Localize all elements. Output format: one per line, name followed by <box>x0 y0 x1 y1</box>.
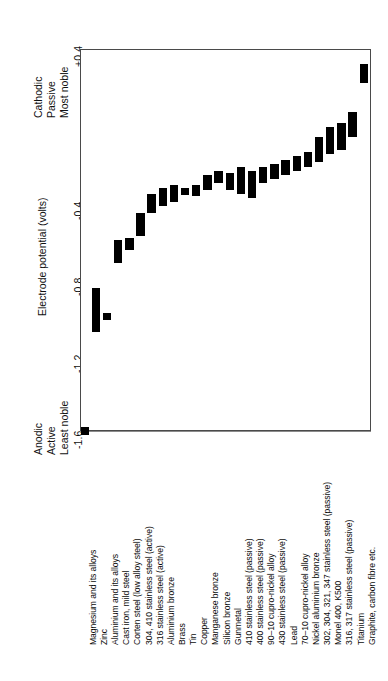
galvanic-series-chart: Cathodic Passive Most noble Anodic Activ… <box>0 0 388 681</box>
bar-10 <box>192 185 200 196</box>
bar-2 <box>103 313 111 320</box>
annotation-cathodic: Cathodic <box>32 77 44 118</box>
bar-21 <box>315 137 323 162</box>
bar-20 <box>304 152 312 167</box>
bar-12 <box>214 171 222 182</box>
category-label-25: Graphite, carbon fibre etc. <box>367 547 377 645</box>
category-label-6: 316 stainless steel (active) <box>155 545 165 645</box>
bar-8 <box>170 185 178 202</box>
category-label-14: 410 stainless steel (passive) <box>244 538 254 645</box>
category-label-15: 400 stainless steel (passive) <box>255 538 265 645</box>
annotation-least-noble: Least noble <box>58 401 70 455</box>
annotation-active: Active <box>45 426 57 455</box>
category-label-19: 70–10 cupro-nickel alloy <box>300 554 310 645</box>
category-label-5: 304, 410 stainless steel (active) <box>144 526 154 645</box>
category-label-7: Aluminium bronze <box>166 577 176 645</box>
bar-17 <box>270 164 278 179</box>
bar-0 <box>81 427 89 435</box>
bar-6 <box>147 194 155 213</box>
bar-24 <box>348 112 356 137</box>
bar-19 <box>293 156 301 171</box>
category-label-8: Brass <box>177 623 187 645</box>
gridline--1.6 <box>80 431 371 432</box>
category-label-2: Aluminium and its alloys <box>110 554 120 645</box>
category-label-13: Gunmetal <box>233 608 243 645</box>
category-label-0: Magnesium and its alloys <box>88 550 98 645</box>
category-label-3: Cast iron, mild steel <box>121 571 131 645</box>
category-label-12: Silicon bronze <box>222 592 232 645</box>
category-label-4: Corten steel (low alloy steel) <box>132 539 142 645</box>
category-label-11: Manganese bronze <box>210 572 220 645</box>
category-label-1: Zinc <box>99 629 109 645</box>
annotation-passive: Passive <box>45 81 57 118</box>
y-axis-title: Electrode potential (volts) <box>36 198 48 316</box>
annotation-anodic: Anodic <box>32 423 44 455</box>
category-label-22: Monel 400, K500 <box>333 581 343 645</box>
bar-23 <box>337 123 345 150</box>
bar-7 <box>159 188 167 205</box>
plot-area <box>80 49 371 431</box>
bar-13 <box>226 173 234 190</box>
bar-25 <box>360 64 368 83</box>
bar-9 <box>181 188 189 195</box>
bar-16 <box>259 167 267 182</box>
bar-11 <box>203 175 211 190</box>
category-label-18: Lead <box>289 626 299 645</box>
bar-4 <box>125 238 133 249</box>
category-label-21: 302, 304, 321, 347 stainless steel (pass… <box>322 482 332 645</box>
category-label-24: Titanium <box>356 613 366 645</box>
bar-18 <box>281 160 289 175</box>
category-label-20: Nickel aluminium bronze <box>311 553 321 645</box>
category-label-17: 430 stainless steel (passive) <box>277 538 287 645</box>
category-label-16: 90–10 cupro-nickel alloy <box>266 554 276 645</box>
bar-1 <box>92 288 100 332</box>
category-label-23: 316, 317 stainless steel (passive) <box>344 520 354 645</box>
bar-15 <box>248 171 256 198</box>
annotation-most-noble: Most noble <box>58 67 70 118</box>
bar-14 <box>237 167 245 194</box>
bar-22 <box>326 127 334 154</box>
category-label-9: Tin <box>188 634 198 645</box>
category-label-10: Copper <box>199 617 209 645</box>
bar-3 <box>114 240 122 263</box>
bar-5 <box>136 213 144 236</box>
